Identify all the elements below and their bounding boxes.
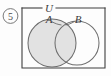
- set-b-label: B: [75, 13, 82, 25]
- item-number-badge: 5: [3, 9, 18, 24]
- item-number-label: 5: [8, 11, 13, 22]
- venn-diagram-figure: 5 U A B: [0, 0, 111, 76]
- set-a-label: A: [45, 13, 53, 25]
- venn-diagram-canvas: 5 U A B: [0, 0, 111, 76]
